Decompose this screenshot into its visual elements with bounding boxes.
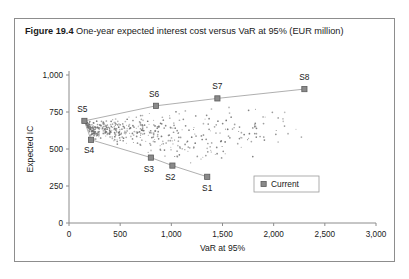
scenario-dot <box>234 127 235 128</box>
data-point-marker[interactable] <box>148 155 153 160</box>
scenario-dot <box>149 132 151 134</box>
scenario-dot <box>195 115 197 117</box>
scenario-dot <box>224 141 226 143</box>
scenario-dot <box>254 133 256 135</box>
scenario-dot <box>89 121 91 123</box>
scenario-dot <box>205 138 207 140</box>
scenario-dot <box>169 115 170 116</box>
scenario-dot <box>175 111 177 113</box>
scenario-dot <box>133 134 135 136</box>
scenario-dot <box>153 132 155 134</box>
scenario-dot <box>114 126 115 127</box>
scenario-dot <box>284 125 286 127</box>
scenario-dot <box>216 153 218 155</box>
legend-marker-current <box>261 181 266 186</box>
scenario-dot <box>126 118 128 120</box>
y-tick-label: 1,000 <box>43 71 64 80</box>
scenario-dot <box>154 141 156 143</box>
scenario-dot <box>172 143 173 144</box>
scenario-dot <box>115 135 116 136</box>
scenario-dot <box>174 156 175 157</box>
scenario-dot <box>142 119 144 121</box>
scenario-dot <box>164 149 166 151</box>
data-point-marker[interactable] <box>205 174 210 179</box>
scenario-dot <box>215 124 217 126</box>
scenario-dot <box>111 130 112 131</box>
scenario-dot <box>124 132 126 134</box>
scenario-dot <box>181 148 183 150</box>
scenario-dot <box>128 117 129 118</box>
scenario-dot <box>173 131 175 133</box>
scenario-dot <box>262 116 264 118</box>
scenario-dot <box>211 142 213 144</box>
scenario-dot <box>139 121 141 123</box>
scenario-dot <box>140 128 142 130</box>
scenario-dot <box>140 144 142 146</box>
data-point-marker[interactable] <box>170 163 175 168</box>
scenario-dot <box>252 156 254 158</box>
scenario-dot <box>141 139 143 141</box>
data-point-marker[interactable] <box>88 137 93 142</box>
scenario-dot <box>287 133 289 135</box>
scenario-dot <box>185 110 187 112</box>
x-tick-label: 0 <box>67 230 72 239</box>
x-tick-label: 2,000 <box>263 230 284 239</box>
scenario-dot <box>150 150 152 152</box>
data-point-label: S3 <box>144 164 155 174</box>
scenario-dot <box>238 131 239 132</box>
scenario-dot <box>254 124 256 126</box>
scenario-dot <box>102 127 104 129</box>
scenario-dot <box>170 147 171 148</box>
scenario-dot <box>254 126 256 128</box>
scenario-dot <box>234 124 236 126</box>
scenario-dot <box>133 142 134 143</box>
scenario-dot <box>165 125 167 127</box>
scenario-dot <box>118 135 119 136</box>
scenario-dot <box>190 162 191 163</box>
scenario-dot <box>206 147 208 149</box>
scenario-dot <box>112 119 113 120</box>
scenario-dot <box>170 127 172 129</box>
data-point-label: S7 <box>212 81 223 91</box>
scenario-dot <box>90 128 92 130</box>
scenario-dot <box>93 135 94 136</box>
scenario-dot <box>211 151 212 152</box>
scenario-dot <box>193 147 195 149</box>
scenario-dot <box>161 123 163 125</box>
scenario-dot <box>142 115 144 117</box>
scenario-dot <box>146 126 148 128</box>
scenario-dot <box>162 143 164 145</box>
scenario-dot <box>109 132 111 134</box>
scenario-dot <box>194 142 196 144</box>
scenario-dot <box>89 131 91 133</box>
scenario-dot <box>102 130 104 132</box>
scenario-dot <box>114 136 116 138</box>
scenario-dot <box>203 134 205 136</box>
data-point-marker[interactable] <box>215 96 220 101</box>
scenario-dot <box>88 122 89 123</box>
scenario-dot <box>158 126 160 128</box>
scenario-dot <box>126 130 128 132</box>
y-tick-label: 0 <box>58 219 63 228</box>
scenario-dot <box>206 114 208 116</box>
data-point-marker[interactable] <box>82 118 87 123</box>
scenario-dot <box>275 134 277 136</box>
scenario-dot <box>247 139 248 140</box>
data-point-marker[interactable] <box>153 103 158 108</box>
scenario-dot <box>140 132 142 134</box>
data-point-marker[interactable] <box>302 87 307 92</box>
scenario-dot <box>184 144 186 146</box>
scenario-dot <box>205 155 207 157</box>
scenario-dot <box>113 129 115 131</box>
scenario-dot <box>107 133 109 135</box>
scenario-dot <box>142 133 144 135</box>
data-point-label: S6 <box>149 89 160 99</box>
scenario-dot <box>99 129 100 130</box>
scenario-dot <box>107 126 109 128</box>
scenario-dot <box>140 135 141 136</box>
scenario-dot <box>214 126 216 128</box>
scenario-dot <box>110 124 112 126</box>
scenario-dot <box>128 125 130 127</box>
scenario-dot <box>215 154 216 155</box>
scenario-dot <box>114 133 116 135</box>
